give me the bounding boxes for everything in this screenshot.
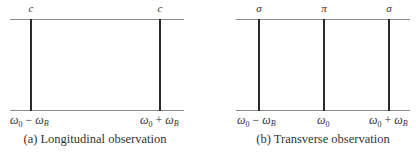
panel-a-caption: (a) Longitudinal observation xyxy=(23,132,166,147)
panel-a-spectral-line-1 xyxy=(30,19,32,111)
panel-b-caption: (b) Transverse observation xyxy=(256,132,389,147)
panel-a-line-2-frequency: ω0 + ωB xyxy=(140,113,179,129)
panel-a-bottom-axis xyxy=(10,110,184,111)
panel-b-spectral-line-2 xyxy=(323,19,325,111)
panel-b-line-2-polarization: π xyxy=(321,2,327,14)
panel-b-line-3-polarization: σ xyxy=(386,2,391,14)
panel-b-line-1-frequency: ω0 − ωB xyxy=(237,113,276,129)
panel-a-top-axis xyxy=(10,19,184,20)
panel-a-line-2-polarization: c xyxy=(158,2,163,14)
panel-a-line-1-polarization: c xyxy=(29,2,34,14)
panel-b-line-1-polarization: σ xyxy=(256,2,261,14)
panel-a-line-1-frequency: ω0 − ωB xyxy=(10,113,49,129)
panel-b-line-2-frequency: ω0 xyxy=(317,113,329,129)
panel-b-line-3-frequency: ω0 + ωB xyxy=(369,113,408,129)
panel-b-spectral-line-1 xyxy=(258,19,260,111)
panel-b-spectral-line-3 xyxy=(388,19,390,111)
panel-a-spectral-line-2 xyxy=(159,19,161,111)
